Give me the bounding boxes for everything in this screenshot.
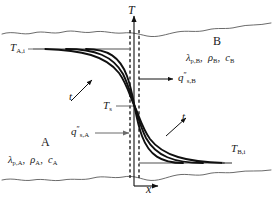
top-wavy-boundary <box>2 23 271 37</box>
x-axis-label: x <box>146 183 151 195</box>
time-arrow-upper <box>71 80 92 101</box>
initial-temp-A-label: TA,i <box>10 42 25 55</box>
bottom-wavy-boundary <box>2 170 271 181</box>
region-B-properties: λp,B, ρB, cB <box>186 53 234 64</box>
region-A-properties: λp,A, ρA, cA <box>8 155 58 166</box>
region-A-label: A <box>41 136 50 148</box>
flux-out-of-A-label: q″s,A <box>71 126 89 139</box>
flux-into-B-label: q″s,B <box>178 72 196 85</box>
initial-temp-B-label: TB,i <box>231 143 246 156</box>
figure-canvas <box>0 0 273 203</box>
region-B-label: B <box>213 35 221 47</box>
time-arrow-upper-label: t <box>69 91 72 102</box>
time-arrow-lower-label: t <box>182 111 185 122</box>
temperature-axis-label: T <box>128 4 135 16</box>
heat-transfer-figure: T x TA,i TB,i Ts A B λp,A, ρA, cA λp,B, … <box>0 0 273 203</box>
surface-temp-label: Ts <box>103 100 112 113</box>
